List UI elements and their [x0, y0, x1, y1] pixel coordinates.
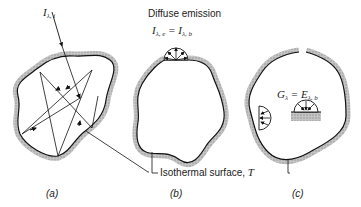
temperature-symbol: T	[248, 166, 254, 178]
eq-rhs-sub: λ, b	[182, 30, 192, 38]
isothermal-text: Isothermal surface,	[160, 167, 248, 178]
diffuse-emission-title: Diffuse emission	[148, 8, 221, 19]
isothermal-surface-label: Isothermal surface, T	[160, 166, 254, 178]
incident-subscript: λ, i	[47, 12, 55, 20]
enclosure-b	[137, 48, 224, 163]
caption-c: (c)	[292, 188, 304, 199]
incident-intensity-label: Iλ, i	[43, 6, 55, 20]
eq-c-lhs: G	[277, 88, 285, 100]
caption-a: (a)	[46, 188, 58, 199]
emission-equation: Iλ, e = Iλ, b	[152, 24, 192, 38]
eq-c-rhs: E	[301, 88, 308, 100]
enclosure-a	[17, 12, 114, 156]
irradiation-equation: Gλ = Eλ, b	[277, 88, 318, 102]
eq-lhs-sub: λ, e	[156, 30, 166, 38]
eq-c-lhs-sub: λ	[285, 94, 288, 102]
enclosure-c	[249, 52, 346, 160]
caption-b: (b)	[170, 188, 182, 199]
eq-c-rhs-sub: λ, b	[308, 94, 318, 102]
